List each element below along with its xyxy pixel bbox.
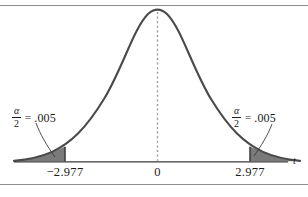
left-equals-sign: = [25, 112, 31, 123]
tick-label-right: 2.977 [222, 166, 278, 179]
t-distribution-figure: α 2 = .005 α 2 = .005 −2.977 0 2.977 t [0, 0, 308, 197]
right-equals-sign: = [245, 112, 251, 123]
left-alpha-denominator: 2 [13, 118, 20, 129]
left-alpha-numerator: α [13, 106, 20, 117]
left-alpha-fraction: α 2 [12, 106, 21, 129]
left-alpha-annotation: α 2 = .005 [12, 106, 56, 129]
axis-label-t: t [293, 156, 296, 166]
right-alpha-numerator: α [233, 106, 240, 117]
left-alpha-value: .005 [34, 112, 56, 124]
right-alpha-denominator: 2 [233, 118, 240, 129]
right-alpha-fraction: α 2 [232, 106, 241, 129]
tick-label-left: −2.977 [32, 166, 98, 179]
right-alpha-annotation: α 2 = .005 [232, 106, 276, 129]
tick-label-center: 0 [141, 166, 174, 179]
right-alpha-value: .005 [254, 112, 276, 124]
